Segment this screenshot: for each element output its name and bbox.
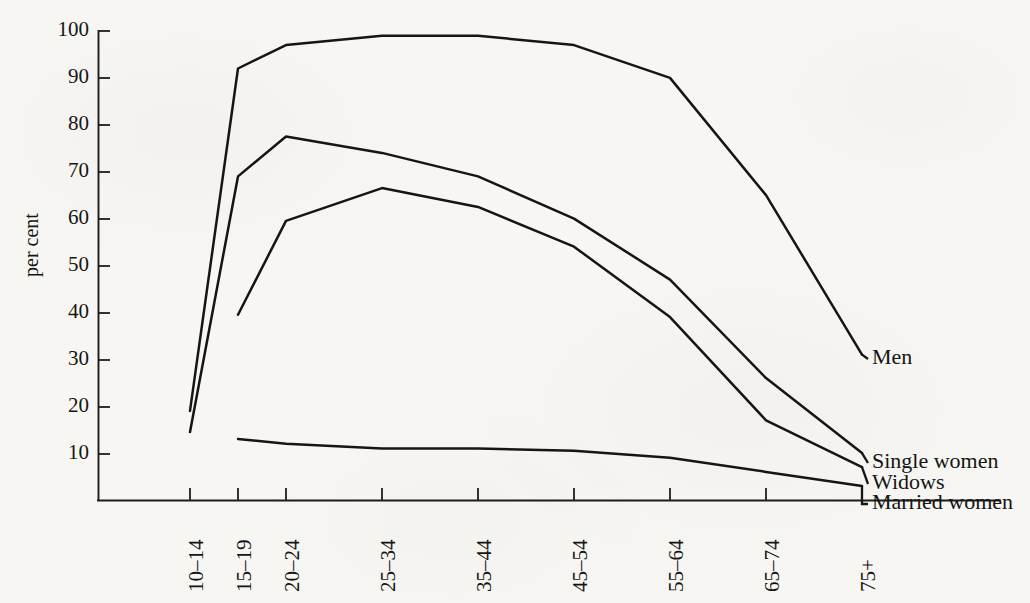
x-tick-label-20-24: 20–24 <box>280 539 304 592</box>
y-tick-labels: 100 90 80 70 60 50 40 30 20 10 <box>58 17 90 464</box>
series-label-men: Men <box>872 344 912 369</box>
x-tick-marks <box>190 488 862 500</box>
y-tick-label-60: 60 <box>68 205 89 229</box>
x-tick-label-75plus: 75+ <box>856 559 880 592</box>
x-tick-label-10-14: 10–14 <box>184 539 208 592</box>
series-line-men <box>190 36 862 411</box>
leader-line-widows <box>862 467 868 484</box>
x-tick-label-55-64: 55–64 <box>664 539 688 592</box>
series-line-widows <box>238 188 862 467</box>
x-tick-label-45-54: 45–54 <box>568 539 592 592</box>
y-tick-marks <box>98 31 110 454</box>
x-tick-label-15-19: 15–19 <box>232 540 256 593</box>
x-tick-label-65-74: 65–74 <box>760 539 784 592</box>
x-tick-label-35-44: 35–44 <box>472 539 496 592</box>
line-chart-figure: 100 90 80 70 60 50 40 30 20 10 per cent <box>0 0 1030 603</box>
leader-line-men <box>862 355 868 359</box>
y-axis-title: per cent <box>20 213 43 277</box>
x-tick-labels: 10–14 15–19 20–24 25–34 35–44 45–54 55–6… <box>184 539 880 592</box>
y-tick-label-10: 10 <box>68 440 89 464</box>
y-tick-label-20: 20 <box>68 393 89 417</box>
y-tick-label-100: 100 <box>58 17 90 41</box>
x-tick-label-25-34: 25–34 <box>376 539 400 592</box>
leader-line-single-women <box>862 453 868 463</box>
y-tick-label-90: 90 <box>68 64 89 88</box>
y-tick-label-50: 50 <box>68 252 89 276</box>
series-group <box>190 36 862 486</box>
series-line-single-women <box>190 137 862 454</box>
series-labels: Men Single women Widows Married women <box>872 344 1013 514</box>
series-line-married-women <box>238 439 862 486</box>
chart-canvas: 100 90 80 70 60 50 40 30 20 10 per cent <box>0 0 1030 603</box>
y-tick-label-30: 30 <box>68 346 89 370</box>
y-tick-label-70: 70 <box>68 158 89 182</box>
series-leader-lines <box>862 355 868 504</box>
series-label-married-women: Married women <box>872 489 1013 514</box>
y-tick-label-80: 80 <box>68 111 89 135</box>
y-tick-label-40: 40 <box>68 299 89 323</box>
